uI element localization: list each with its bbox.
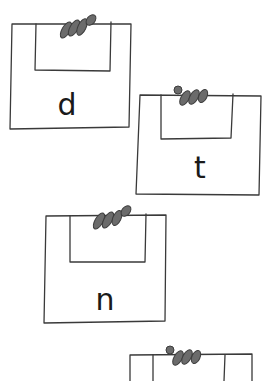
- worm-fingers-icon: [91, 204, 133, 231]
- letter-boxes-illustration: d t n: [0, 0, 268, 381]
- worm-fingers-icon: [174, 86, 210, 107]
- letter-t: t: [194, 150, 206, 185]
- worm-fingers-icon: [58, 13, 98, 40]
- letter-d: d: [57, 87, 76, 122]
- letter-box-t: t: [136, 86, 261, 195]
- letter-box-n: n: [44, 204, 166, 323]
- letter-box-d: d: [10, 13, 131, 129]
- inner-box: [161, 94, 233, 139]
- letter-n: n: [95, 282, 114, 317]
- letter-box-partial: [130, 346, 252, 381]
- worm-fingers-icon: [166, 346, 203, 367]
